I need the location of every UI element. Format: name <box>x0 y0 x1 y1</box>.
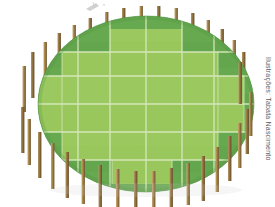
soccer-field-illustration <box>0 0 275 207</box>
wooden-post <box>238 123 241 168</box>
wooden-post <box>239 62 242 104</box>
wooden-post <box>38 132 41 178</box>
wooden-post <box>21 107 24 153</box>
wooden-post <box>23 66 26 112</box>
wooden-post <box>28 119 31 165</box>
illustration-canvas: Ilustrações: Tabata Nascimento <box>0 0 275 207</box>
pencil-smudge-artifact <box>86 2 105 11</box>
wooden-post <box>51 143 54 189</box>
wooden-post <box>82 159 85 204</box>
illustration-credit: Ilustrações: Tabata Nascimento <box>262 57 274 169</box>
wooden-post <box>249 92 252 136</box>
wooden-post <box>228 136 231 181</box>
wooden-post <box>246 109 249 154</box>
ground-shadow <box>50 183 242 197</box>
wooden-post <box>31 52 34 98</box>
